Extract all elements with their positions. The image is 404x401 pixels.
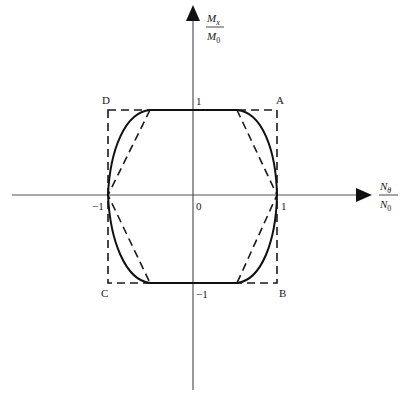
- corner-label-a: A: [276, 94, 284, 106]
- tick-x-pos: 1: [281, 200, 287, 212]
- y-axis-label: Mx M0: [206, 12, 224, 45]
- interaction-diagram: 0 1 −1 1 −1 A B C D Mx M0 Nθ N0: [0, 0, 404, 401]
- x-axis-arrow-icon: [356, 188, 372, 202]
- y-axis-arrow-icon: [186, 5, 200, 21]
- svg-text:Mx: Mx: [206, 12, 220, 27]
- corner-label-b: B: [279, 287, 286, 299]
- corner-label-d: D: [102, 94, 110, 106]
- tick-y-pos: 1: [196, 95, 202, 107]
- tick-x-neg: −1: [92, 200, 104, 212]
- origin-label: 0: [196, 200, 202, 212]
- corner-label-c: C: [101, 287, 108, 299]
- x-axis-label: Nθ N0: [379, 180, 398, 213]
- tick-y-neg: −1: [196, 288, 208, 300]
- svg-text:Nθ: Nθ: [379, 180, 391, 195]
- svg-text:N0: N0: [379, 198, 391, 213]
- svg-text:M0: M0: [206, 30, 220, 45]
